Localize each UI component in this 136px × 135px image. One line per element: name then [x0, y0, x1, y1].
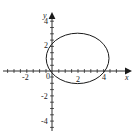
x-tick-label-4: 4 — [102, 74, 106, 82]
coordinate-plot — [0, 0, 136, 135]
x-tick-label-2: 2 — [76, 76, 80, 84]
y-axis-arrowhead — [49, 12, 56, 19]
x-tick-label-neg2: -2 — [22, 74, 29, 82]
y-tick-label-4: 4 — [44, 18, 48, 26]
x-axis-label: x — [125, 74, 129, 82]
y-tick-label-neg4: -4 — [41, 118, 48, 126]
y-tick-label-2: 2 — [44, 42, 48, 50]
origin-label: 0 — [46, 73, 50, 81]
figure-canvas: y x 0 -2 2 4 4 2 -2 -4 — [0, 0, 136, 135]
y-tick-label-neg2: -2 — [41, 93, 48, 101]
